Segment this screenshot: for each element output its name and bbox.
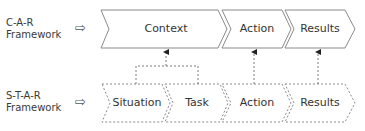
step-results-top-label: Results	[293, 22, 347, 36]
step-context-label: Context	[112, 22, 220, 36]
step-results-bottom-label: Results	[293, 96, 347, 110]
connector-situation-task-bracket	[136, 66, 198, 84]
framework-diagram	[0, 0, 365, 131]
step-action-top-label: Action	[230, 22, 284, 36]
step-situation-label: Situation	[110, 96, 164, 110]
step-task-label: Task	[172, 96, 222, 110]
step-action-bottom-label: Action	[230, 96, 284, 110]
mapping-connectors	[136, 52, 318, 84]
